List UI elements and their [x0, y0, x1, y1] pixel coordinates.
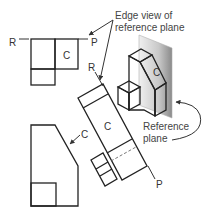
arrow-to-aux-edge-view [100, 20, 113, 80]
aux-reference-r-segment [95, 72, 103, 86]
arrow-to-top-edge-view [89, 20, 113, 35]
aux-main-rect [78, 84, 147, 180]
label-c-front: C [81, 129, 88, 140]
aux-small-block [91, 153, 117, 186]
label-r-aux: R [88, 62, 95, 73]
aux-top-band [83, 94, 108, 108]
label-c-aux: C [104, 121, 111, 132]
isometric-object: C [118, 35, 172, 118]
aux-block-divider-2 [100, 169, 112, 176]
edge-view-text-2: reference plane [115, 22, 185, 33]
iso-cube-right [129, 87, 140, 110]
aux-lower-divider [107, 139, 132, 153]
front-view-block [31, 183, 56, 206]
label-p-aux: P [156, 179, 163, 190]
iso-cube-left [118, 87, 129, 110]
aux-reference-p-segment [148, 166, 155, 179]
reference-text-1: Reference [143, 121, 190, 132]
top-view-left-rect [31, 39, 55, 69]
auxiliary-view-diagram: R P C Edge view of reference plane C Ref… [0, 0, 209, 224]
arrow-to-face-c-front [70, 135, 80, 144]
reference-text-2: plane [143, 133, 168, 144]
label-c-iso: C [153, 67, 160, 78]
label-r-top: R [9, 37, 16, 48]
top-view-block [31, 69, 55, 85]
front-view: C [31, 125, 88, 206]
edge-view-text-1: Edge view of [115, 10, 172, 21]
front-view-outline [31, 125, 78, 206]
label-c-top: C [63, 50, 70, 61]
aux-block-divider-1 [96, 162, 108, 169]
top-view: R P C [9, 37, 98, 85]
label-p-top: P [91, 37, 98, 48]
